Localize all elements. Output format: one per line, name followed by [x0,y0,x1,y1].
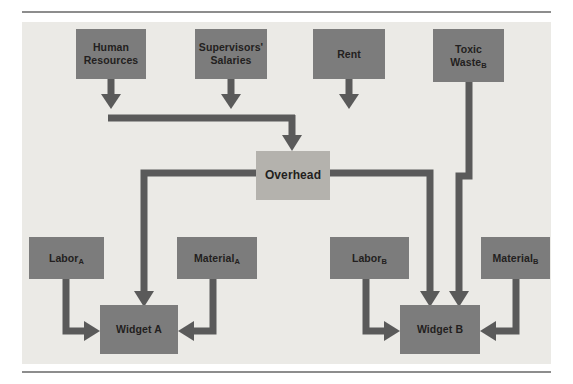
node-overhead[interactable]: Overhead [256,151,330,200]
node-material-b-label: MaterialB [492,252,538,265]
node-toxic-waste[interactable]: Toxic WasteB [433,29,504,82]
node-labor-a-label: LaborA [49,252,84,265]
connector-toxic-waste-to-widget-b [449,82,469,307]
diagram-figure: .ln { stroke: #5a5a5a; stroke-width: 7; … [0,0,573,384]
node-widget-b[interactable]: Widget B [400,305,480,354]
node-labor-b[interactable]: LaborB [330,237,409,279]
connector-supervisors-to-bus [221,79,241,109]
node-material-a-label: MaterialA [194,252,240,265]
node-labor-a[interactable]: LaborA [29,237,104,279]
connector-labor-a-to-widget-a [66,279,100,341]
connector-rent-to-bus [339,79,359,109]
connector-human-resources-to-bus [101,79,121,109]
node-supervisors-salaries-label: Supervisors' Salaries [199,41,263,67]
connector-labor-b-to-widget-b [366,279,400,341]
connector-material-b-to-widget-b [480,279,516,341]
node-material-a[interactable]: MaterialA [177,237,257,279]
node-supervisors-salaries[interactable]: Supervisors' Salaries [195,29,267,79]
node-human-resources[interactable]: Human Resources [76,29,146,79]
node-rent-label: Rent [337,48,361,61]
node-labor-b-label: LaborB [352,252,387,265]
node-toxic-waste-label: Toxic WasteB [450,43,487,69]
node-widget-b-label: Widget B [417,323,463,336]
node-material-b[interactable]: MaterialB [481,237,550,279]
node-widget-a-label: Widget A [116,323,162,336]
node-widget-a[interactable]: Widget A [100,305,178,354]
node-rent[interactable]: Rent [313,29,385,79]
connector-material-a-to-widget-a [178,279,213,341]
node-overhead-label: Overhead [265,168,321,183]
node-human-resources-label: Human Resources [84,41,139,67]
